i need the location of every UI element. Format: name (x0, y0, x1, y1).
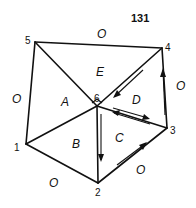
face-label-B: B (72, 137, 80, 151)
vertex-label-6: 6 (94, 93, 100, 104)
face-label-A: A (60, 95, 69, 109)
outer-label-5-4: O (97, 27, 106, 41)
edge-1-5 (26, 42, 35, 144)
edge-2-1 (26, 144, 98, 183)
vertex-label-5: 5 (25, 35, 31, 46)
page-number: 131 (131, 12, 149, 24)
edge-2-6 (97, 106, 98, 183)
face-label-D: D (132, 93, 141, 107)
vertex-label-1: 1 (14, 142, 20, 153)
edge-1-6 (26, 106, 97, 144)
arrow-2-to-3 (117, 142, 147, 165)
vertex-label-4: 4 (165, 42, 171, 53)
edge-3-2 (98, 128, 167, 183)
edge-4-3 (162, 48, 167, 128)
edge-4-6 (97, 48, 162, 106)
vertex-label-3: 3 (170, 125, 176, 136)
outer-label-1-5: O (12, 92, 21, 106)
edge-3-6 (97, 106, 167, 128)
vertex-label-2: 2 (95, 187, 101, 198)
outer-label-4-3: O (176, 79, 185, 93)
arrow-6-to-2 (98, 114, 104, 162)
face-label-E: E (96, 65, 105, 79)
graph-diagram: 131 5 4 6 3 1 2 E A D C B (0, 0, 196, 208)
face-label-C: C (115, 131, 124, 145)
outer-label-3-2: O (136, 163, 145, 177)
edge-5-4 (35, 42, 162, 48)
outer-label-2-1: O (49, 176, 58, 190)
